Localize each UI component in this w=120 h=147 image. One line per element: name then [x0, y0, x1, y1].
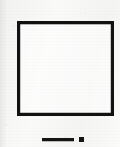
square-right-edge [111, 21, 114, 116]
scan-gutter-shadow [0, 0, 7, 147]
scanned-figure-page [0, 0, 120, 147]
scale-bar-dot [79, 137, 84, 142]
square-top-edge [17, 21, 114, 24]
square-outline-shape [17, 21, 114, 116]
scale-bar-group [0, 138, 120, 146]
square-interior [20, 24, 111, 113]
square-left-edge [17, 21, 20, 116]
square-bottom-edge [17, 113, 114, 116]
scale-bar-line [42, 138, 74, 141]
